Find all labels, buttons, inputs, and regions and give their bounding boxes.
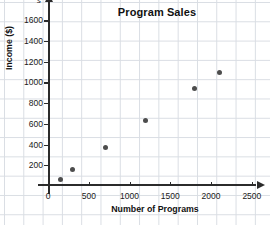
- y-axis-title: Income ($): [4, 26, 14, 70]
- data-point: [217, 70, 222, 75]
- x-tick: [89, 182, 90, 186]
- x-tick-label: 0: [46, 191, 51, 201]
- y-tick: [44, 103, 48, 104]
- y-tick: [44, 165, 48, 166]
- data-point: [70, 167, 75, 172]
- x-axis-arrow-icon: [257, 181, 265, 189]
- x-tick-label: 1000: [120, 191, 139, 201]
- x-axis-line: [38, 184, 256, 186]
- x-tick: [130, 182, 131, 186]
- y-tick-label: 600: [29, 119, 43, 129]
- y-tick: [44, 62, 48, 63]
- y-tick-label: 400: [29, 140, 43, 150]
- y-axis-arrow-icon: [45, 0, 53, 2]
- y-tick-label: 1400: [24, 36, 43, 46]
- x-tick: [252, 182, 253, 186]
- y-tick-label: 1600: [24, 15, 43, 25]
- x-tick: [170, 182, 171, 186]
- x-tick-label: 2000: [202, 191, 221, 201]
- x-tick-label: 500: [82, 191, 96, 201]
- y-tick: [44, 41, 48, 42]
- scatter-plot-figure: Program Sales Income ($) Number of Progr…: [0, 0, 270, 225]
- y-tick: [44, 20, 48, 21]
- y-tick: [44, 82, 48, 83]
- x-axis-title: Number of Programs: [0, 204, 270, 214]
- data-point: [192, 86, 197, 91]
- y-tick-label: 200: [29, 160, 43, 170]
- y-tick: [44, 124, 48, 125]
- y-axis-line: [48, 2, 50, 194]
- x-tick-label: 2500: [242, 191, 261, 201]
- x-tick-label: 1500: [161, 191, 180, 201]
- data-point: [103, 145, 108, 150]
- x-tick: [211, 182, 212, 186]
- y-tick-label: 1200: [24, 57, 43, 67]
- y-tick-label: 800: [29, 98, 43, 108]
- data-point: [58, 177, 63, 182]
- plot-area: p s 05001000150020002500 200400600800100…: [48, 10, 260, 186]
- data-point: [143, 118, 148, 123]
- y-tick-label: 1000: [24, 77, 43, 87]
- y-tick: [44, 145, 48, 146]
- y-variable-label: s: [37, 0, 41, 5]
